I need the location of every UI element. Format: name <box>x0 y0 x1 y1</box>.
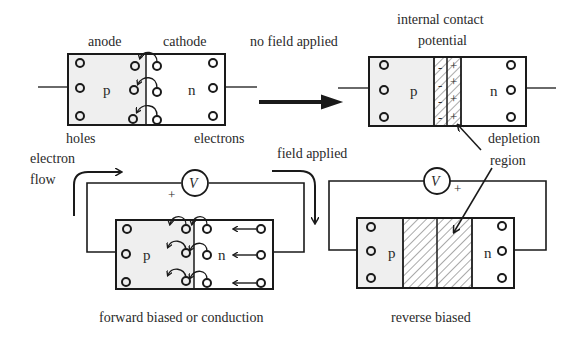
forward-biased-caption: forward biased or conduction <box>99 310 263 325</box>
right-arrow-icon <box>260 96 340 108</box>
positive-terminal: + <box>168 187 175 202</box>
svg-text:-: - <box>438 60 442 75</box>
positive-terminal: + <box>454 181 461 196</box>
p-label: p <box>143 247 151 263</box>
svg-text:-: - <box>438 110 442 125</box>
svg-text:+: + <box>450 109 457 124</box>
n-label: n <box>484 245 492 261</box>
n-label: n <box>188 82 196 98</box>
pn-junction-diagram: anode cathode p n holes electrons no fie… <box>0 0 579 341</box>
panel-equilibrium: internal contact potential - - - - + + +… <box>338 12 556 168</box>
p-region <box>369 57 434 126</box>
field-applied-label: field applied <box>277 146 347 161</box>
electron-flow-arrow-icon <box>74 172 121 216</box>
reverse-biased-caption: reverse biased <box>391 310 471 325</box>
panel-forward-biased: electron flow V + <box>30 151 304 325</box>
n-label: n <box>218 247 226 263</box>
internal-contact-label-line1: internal contact <box>397 12 484 27</box>
voltage-symbol: V <box>189 176 199 191</box>
panel-reverse-biased: V + p n reverse biased <box>329 168 546 325</box>
transition-no-field: no field applied <box>250 34 340 108</box>
electron-flow-label-line1: electron <box>30 151 75 166</box>
no-field-label: no field applied <box>250 34 338 49</box>
n-label: n <box>490 83 498 99</box>
cathode-label: cathode <box>163 34 207 49</box>
n-region <box>146 54 225 125</box>
transition-field-applied: field applied <box>272 146 347 223</box>
depletion-label-line1: depletion <box>488 131 540 146</box>
voltage-symbol: V <box>431 174 441 189</box>
p-label: p <box>410 83 418 99</box>
internal-contact-label-line2: potential <box>418 33 467 48</box>
depletion-p-side <box>403 218 437 288</box>
depletion-pointer-arrow <box>458 125 481 150</box>
electrons-label: electrons <box>194 131 245 146</box>
down-curved-arrow-icon <box>272 171 315 223</box>
depletion-n-side <box>437 218 472 288</box>
anode-label: anode <box>88 34 121 49</box>
electron-flow-label-line2: flow <box>30 172 57 187</box>
holes-label: holes <box>66 131 96 146</box>
svg-text:+: + <box>450 74 457 89</box>
p-label: p <box>103 82 111 98</box>
n-region <box>472 218 514 288</box>
svg-text:-: - <box>438 78 442 93</box>
p-region <box>357 218 403 288</box>
panel-unbiased: anode cathode p n holes electrons <box>38 34 257 146</box>
p-label: p <box>388 245 396 261</box>
diagram-canvas: anode cathode p n holes electrons no fie… <box>0 0 579 341</box>
svg-text:+: + <box>450 91 457 106</box>
depletion-label-line2: region <box>490 153 526 168</box>
svg-text:-: - <box>438 94 442 109</box>
svg-text:+: + <box>450 58 457 73</box>
